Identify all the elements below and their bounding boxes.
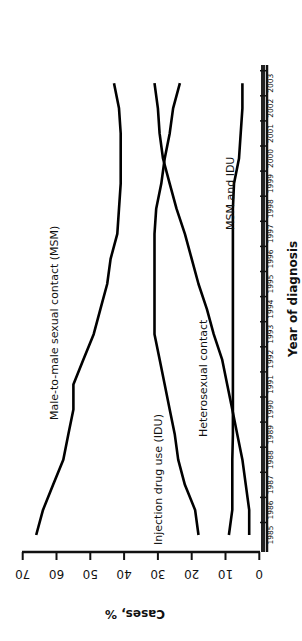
y-tick-label: 50 — [83, 567, 98, 581]
x-tick-label: 2002 — [266, 99, 275, 118]
x-tick-label: 1997 — [266, 224, 275, 243]
label-hetero: Heterosexual contact — [197, 319, 210, 437]
x-tick-label: 1986 — [266, 500, 275, 519]
label-msm: Male-to-male sexual contact (MSM) — [48, 226, 61, 420]
x-axis-title: Year of diagnosis — [286, 241, 300, 358]
x-tick-label: 1989 — [266, 425, 275, 444]
x-tick-label: 1994 — [266, 299, 275, 318]
x-tick-label: 1998 — [266, 199, 275, 218]
y-axis-title: Cases, % — [105, 607, 165, 621]
x-tick-label: 1987 — [266, 475, 275, 494]
x-tick-label: 1985 — [266, 525, 275, 544]
y-tick-label: 40 — [116, 567, 131, 581]
x-tick-label: 1990 — [266, 400, 275, 419]
x-tick-label: 1992 — [266, 350, 275, 369]
chart: 1985198619871988198919901991199219931994… — [0, 0, 302, 641]
x-tick-label: 2000 — [266, 149, 275, 168]
x-tick-label: 1991 — [266, 375, 275, 394]
y-tick-label: 60 — [49, 567, 64, 581]
y-tick-label: 0 — [255, 567, 263, 581]
x-tick-label: 1993 — [266, 324, 275, 343]
series-lines — [36, 83, 249, 535]
y-tick-label: 70 — [15, 567, 30, 581]
y-tick-label: 30 — [150, 567, 165, 581]
x-tick-label: 1996 — [266, 249, 275, 268]
x-tick-label: 2001 — [266, 124, 275, 143]
series-line-3 — [229, 83, 243, 535]
x-tick-label: 1988 — [266, 450, 275, 469]
x-tick-label: 2003 — [266, 73, 275, 92]
y-tick-label: 20 — [184, 567, 199, 581]
series-line-2 — [155, 83, 250, 535]
x-axis-ticks: 1985198619871988198919901991199219931994… — [260, 65, 275, 552]
y-tick-label: 10 — [218, 567, 233, 581]
y-axis-ticks: 010203040506070 — [15, 552, 263, 581]
label-idu: Injection drug use (IDU) — [152, 414, 165, 545]
label-msm-idu: MSM and IDU — [224, 157, 237, 230]
x-tick-label: 1999 — [266, 174, 275, 193]
x-tick-label: 1995 — [266, 274, 275, 293]
